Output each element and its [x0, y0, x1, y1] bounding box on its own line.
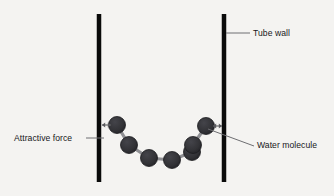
force-arrow-head-left — [102, 122, 105, 127]
water-molecule-label: Water molecule — [257, 141, 317, 150]
tube-walls-group — [99, 14, 224, 182]
water-molecule — [164, 152, 181, 169]
tube-wall-label: Tube wall — [253, 29, 290, 38]
water-molecule — [109, 117, 126, 134]
attractive-force-label: Attractive force — [14, 134, 72, 143]
water-molecule — [185, 137, 202, 154]
water-molecule — [141, 150, 158, 167]
water-molecule — [121, 137, 138, 154]
capillary-diagram: Tube wall Attractive force Water molecul… — [0, 0, 334, 196]
water-molecules-group — [109, 117, 215, 169]
water-molecule — [198, 118, 215, 135]
water-molecule-leader — [208, 129, 254, 146]
force-arrow-head-right — [219, 123, 222, 128]
